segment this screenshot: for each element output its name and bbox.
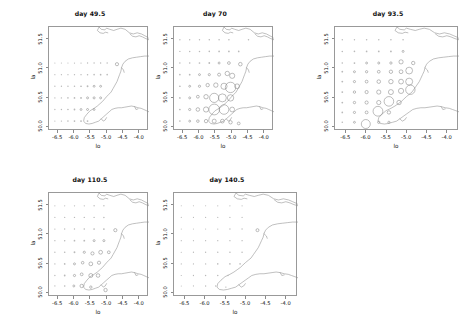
data-point [93,62,94,63]
data-point [64,263,66,265]
y-axis-label: la [316,67,322,87]
map-canvas [49,193,149,297]
x-tick-label: -4.0 [276,300,296,306]
x-tick-mark [225,296,226,299]
coastline [255,34,274,40]
data-bubble [81,261,84,264]
data-point [193,240,194,241]
data-bubble [91,252,94,255]
data-bubble [353,81,355,83]
y-tick-label: 51.0 [37,61,43,75]
data-bubble [204,119,207,122]
data-bubble [366,62,368,64]
data-bubble [196,108,200,112]
data-bubble [206,83,209,86]
panel-title: day 49.5 [26,10,154,17]
data-point [181,285,182,286]
data-point [87,74,89,76]
data-point [80,85,82,87]
data-bubble [97,261,100,264]
panel-title: day 140.5 [151,176,303,183]
data-point [199,51,201,53]
data-bubble [93,97,95,99]
data-bubble [353,101,355,103]
y-tick-mark [171,126,174,127]
data-point [64,251,66,253]
data-point [106,62,107,63]
data-point [80,120,82,122]
x-tick-mark [57,130,58,133]
data-point [341,91,343,93]
y-tick-mark [46,38,49,39]
data-bubble [189,120,191,122]
data-bubble [218,62,220,64]
data-bubble [197,120,200,123]
y-tick-mark [46,97,49,98]
y-tick-mark [332,97,335,98]
coastline [436,34,460,40]
x-tick-label: -4.0 [129,300,149,306]
data-point [228,51,230,53]
data-point [181,240,182,241]
data-point [87,120,89,122]
data-point [106,74,108,76]
coastline [122,68,125,73]
coastline [264,234,267,239]
data-point [181,228,182,229]
data-point [215,285,216,286]
data-point [54,240,55,241]
data-point [208,51,210,53]
data-bubble [87,109,89,111]
data-point [205,205,206,206]
data-bubble [107,251,110,254]
x-tick-label: -5.0 [235,300,255,306]
plot-area [48,192,148,296]
x-axis-label: lo [173,143,273,149]
panel-title: day 110.5 [26,176,154,183]
data-point [54,121,55,122]
data-bubble [189,108,191,110]
data-point [227,275,229,277]
y-tick-label: 50.5 [37,256,43,270]
data-point [83,228,85,230]
data-bubble [115,63,118,66]
data-bubble [93,85,95,87]
data-point [54,275,55,276]
data-point [100,62,101,63]
map-panel: day 49.5-6.5-6.0-5.5-5.0-4.5-4.050.050.5… [26,6,154,170]
data-point [217,275,219,277]
data-bubble [239,62,243,66]
data-bubble [365,111,368,114]
data-point [217,252,218,253]
data-bubble [218,73,221,76]
data-bubble [214,83,218,87]
data-point [67,109,69,111]
data-point [67,120,69,122]
x-tick-mark [73,130,74,133]
coastline [236,193,298,205]
y-tick-mark [171,263,174,264]
data-point [93,217,94,218]
data-bubble [353,121,355,123]
data-point [93,74,95,76]
data-point [217,228,218,229]
data-point [241,228,242,229]
x-tick-label: -4.0 [254,134,274,140]
data-bubble [189,85,191,87]
y-tick-label: 51.5 [37,32,43,46]
x-tick-label: -5.0 [396,134,416,140]
coastline [99,27,149,39]
y-tick-label: 51.0 [323,61,329,75]
data-point [61,86,62,87]
y-axis-label: la [155,233,161,253]
data-bubble [399,79,404,84]
data-bubble [398,88,403,93]
y-tick-label: 51.5 [323,32,329,46]
data-point [67,74,68,75]
data-point [390,39,392,41]
data-point [61,97,62,98]
data-point [378,51,380,53]
data-point [354,39,355,40]
data-point [218,51,220,53]
data-point [54,74,55,75]
